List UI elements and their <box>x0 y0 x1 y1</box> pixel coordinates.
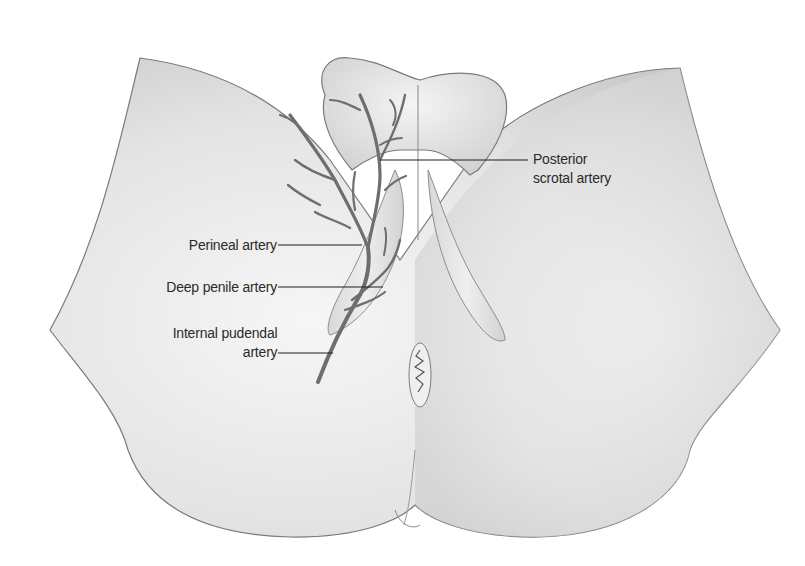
label-line: Internal pudendal <box>172 323 277 342</box>
anus <box>409 343 431 407</box>
label-internal-pudendal-artery: Internal pudendal artery <box>172 323 277 361</box>
label-line: Perineal artery <box>189 235 277 254</box>
label-posterior-scrotal-artery: Posterior scrotal artery <box>533 149 611 187</box>
label-line: Posterior <box>533 149 611 168</box>
perineum-illustration <box>0 0 805 566</box>
label-deep-penile-artery: Deep penile artery <box>166 277 277 296</box>
label-line: artery <box>172 342 277 361</box>
label-line: scrotal artery <box>533 168 611 187</box>
label-line: Deep penile artery <box>166 277 277 296</box>
anatomy-figure: Posterior scrotal artery Perineal artery… <box>0 0 805 566</box>
label-perineal-artery: Perineal artery <box>189 235 277 254</box>
